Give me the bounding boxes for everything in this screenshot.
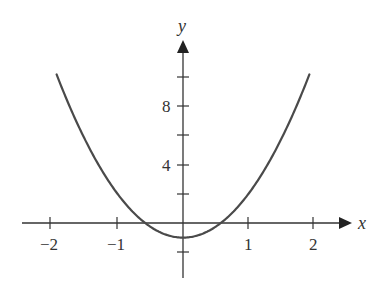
- parabola-curve: [57, 74, 310, 237]
- curve-layer: [0, 0, 391, 294]
